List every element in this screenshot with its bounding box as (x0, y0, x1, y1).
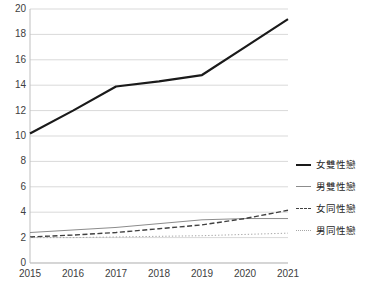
legend-item-label: 男雙性戀 (316, 179, 356, 193)
x-tick-label: 2021 (268, 268, 308, 280)
y-axis-labels: 20181614121086420 (0, 9, 26, 263)
legend-item-label: 女雙性戀 (316, 157, 356, 171)
y-tick-label: 10 (2, 131, 26, 141)
legend-item[interactable]: 女同性戀 (296, 197, 364, 219)
y-tick-label: 12 (2, 106, 26, 116)
legend-item-label: 女同性戀 (316, 201, 356, 215)
series-line-1 (30, 219, 288, 233)
legend-line-icon (296, 203, 311, 213)
legend-line-icon (296, 159, 311, 169)
y-tick-label: 16 (2, 55, 26, 65)
y-tick-label: 14 (2, 80, 26, 90)
x-tick-label: 2015 (10, 268, 50, 280)
legend-item[interactable]: 女雙性戀 (296, 153, 364, 175)
y-tick-label: 2 (2, 233, 26, 243)
chart-legend: 女雙性戀男雙性戀女同性戀男同性戀 (296, 153, 364, 241)
x-axis-labels: 2015201620172018201920202021 (30, 268, 288, 284)
legend-item-label: 男同性戀 (316, 223, 356, 237)
y-tick-label: 8 (2, 156, 26, 166)
x-tick-label: 2017 (96, 268, 136, 280)
legend-line-icon (296, 181, 311, 191)
x-tick-label: 2020 (225, 268, 265, 280)
plot-area (30, 9, 288, 263)
legend-item[interactable]: 男雙性戀 (296, 175, 364, 197)
series-line-0 (30, 19, 288, 133)
legend-line-icon (296, 225, 311, 235)
x-tick-label: 2019 (182, 268, 222, 280)
plot-svg (30, 9, 288, 263)
y-tick-label: 20 (2, 4, 26, 14)
y-tick-label: 0 (2, 258, 26, 268)
x-tick-label: 2018 (139, 268, 179, 280)
legend-item[interactable]: 男同性戀 (296, 219, 364, 241)
gridlines (30, 9, 288, 263)
y-tick-label: 4 (2, 207, 26, 217)
line-chart: 20181614121086420 2015201620172018201920… (0, 0, 365, 293)
series-lines (30, 19, 288, 237)
x-tick-label: 2016 (53, 268, 93, 280)
y-tick-label: 6 (2, 182, 26, 192)
y-tick-label: 18 (2, 29, 26, 39)
